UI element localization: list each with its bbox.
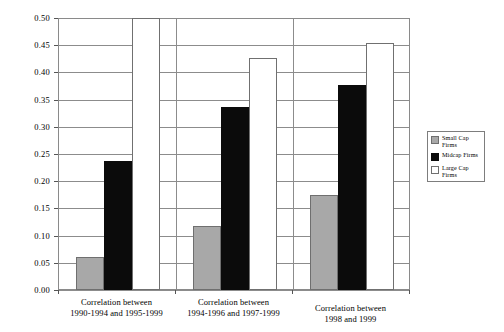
bar-chart: 0.50 0.45 0.40 0.35 0.30 0.25 0.20 0.15 …: [0, 0, 504, 332]
bar-small-cap-g3: [310, 195, 338, 290]
x-group-label-line: Correlation between: [58, 297, 175, 308]
y-tick-label: 0.30: [34, 123, 50, 132]
y-tick-label: 0.35: [34, 96, 50, 105]
legend-swatch-icon: [431, 136, 439, 144]
gridline: [59, 290, 409, 291]
legend-item-midcap-firms: Midcap Firms: [431, 152, 481, 161]
bar-midcap-g2: [221, 107, 249, 290]
legend-swatch-icon: [431, 166, 439, 174]
bar-midcap-g3: [338, 85, 366, 290]
legend: Small Cap Firms Midcap Firms Large Cap F…: [427, 131, 485, 182]
legend-label: Large Cap Firms: [442, 165, 469, 178]
legend-label-line: Firms: [442, 171, 457, 178]
x-group-label-line: Correlation between: [292, 303, 409, 314]
x-group-label-1: Correlation between 1990-1994 and 1995-1…: [58, 297, 175, 319]
x-tick-mark: [175, 290, 176, 294]
y-tick-label: 0.45: [34, 41, 50, 50]
x-tick-mark: [292, 290, 293, 294]
legend-label: Small Cap Firms: [442, 135, 469, 148]
bar-midcap-g1: [104, 161, 132, 291]
legend-swatch-icon: [431, 153, 439, 161]
legend-item-large-cap-firms: Large Cap Firms: [431, 165, 481, 178]
y-tick-label: 0.25: [34, 150, 50, 159]
y-tick-label: 0.50: [34, 14, 50, 23]
bars-layer: [58, 18, 410, 290]
legend-label: Midcap Firms: [442, 152, 478, 159]
x-group-label-line: 1994-1996 and 1997-1999: [175, 308, 292, 319]
y-tick-label: 0.00: [34, 286, 50, 295]
y-tick-label: 0.15: [34, 204, 50, 213]
bar-large-cap-g2: [249, 58, 277, 290]
legend-label-line: Firms: [442, 141, 457, 148]
bar-large-cap-g3: [366, 43, 394, 291]
y-tick-label: 0.20: [34, 177, 50, 186]
x-group-label-line: 1998 and 1999: [292, 314, 409, 325]
x-group-label-line: 1990-1994 and 1995-1999: [58, 308, 175, 319]
x-group-label-line: Correlation between: [175, 297, 292, 308]
y-tick-label: 0.10: [34, 232, 50, 241]
x-tick-mark: [409, 290, 410, 294]
x-group-label-3: Correlation between 1998 and 1999: [292, 303, 409, 325]
legend-item-small-cap-firms: Small Cap Firms: [431, 135, 481, 148]
x-group-label-2: Correlation between 1994-1996 and 1997-1…: [175, 297, 292, 319]
bar-small-cap-g2: [193, 226, 221, 290]
y-tick-label: 0.05: [34, 259, 50, 268]
y-tick-label: 0.40: [34, 68, 50, 77]
legend-label-line: Midcap Firms: [442, 151, 478, 158]
bar-small-cap-g1: [76, 257, 104, 290]
x-tick-mark: [58, 290, 59, 294]
bar-large-cap-g1: [132, 18, 160, 290]
